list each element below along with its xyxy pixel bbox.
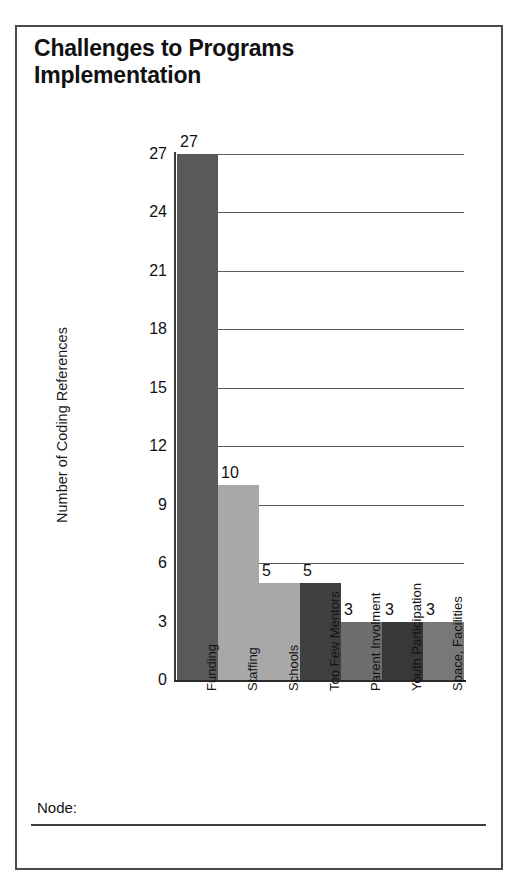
x-axis-category-label: Parent Involment	[368, 593, 383, 691]
y-axis-tick-label: 0	[127, 671, 167, 689]
y-axis-tick-label: 12	[127, 437, 167, 455]
x-axis-category-label: Funding	[204, 644, 219, 691]
y-axis-tick-label: 21	[127, 262, 167, 280]
y-axis-tick-labels: 0369121518212427	[122, 154, 167, 680]
x-axis-category-label: Youth Participation	[409, 583, 424, 691]
y-axis-tick-label: 3	[127, 613, 167, 631]
y-axis-tick-label: 24	[127, 203, 167, 221]
x-axis-category-label: Space, Facilities	[450, 596, 465, 691]
x-axis-category-label: Too Few Mentors	[327, 591, 342, 691]
y-axis-tick-label: 27	[127, 145, 167, 163]
footer-node-label: Node:	[37, 799, 77, 816]
y-axis-tick-label: 18	[127, 320, 167, 338]
y-axis-line	[174, 152, 176, 682]
gridline	[177, 154, 464, 155]
x-axis-category-label: Schools	[286, 645, 301, 691]
footer-divider	[31, 824, 486, 826]
bar-value-label: 10	[221, 464, 239, 482]
bar-value-label: 3	[344, 601, 353, 619]
bar-value-label: 3	[385, 601, 394, 619]
gridline	[177, 329, 464, 330]
page-title: Challenges to Programs Implementation	[34, 35, 364, 89]
gridline	[177, 446, 464, 447]
gridline	[177, 271, 464, 272]
bar-value-label: 5	[262, 562, 271, 580]
chart-page-frame: Challenges to Programs Implementation Nu…	[15, 25, 503, 870]
bar[interactable]	[177, 154, 218, 680]
gridline	[177, 212, 464, 213]
y-axis-title: Number of Coding References	[54, 300, 70, 550]
x-axis-category-labels: FundingStaffingSchoolsToo Few MentorsPar…	[177, 685, 477, 835]
bar-value-label: 27	[180, 133, 198, 151]
y-axis-tick-label: 6	[127, 554, 167, 572]
y-axis-tick-label: 9	[127, 496, 167, 514]
x-axis-category-label: Staffing	[245, 647, 260, 691]
bar-value-label: 3	[426, 601, 435, 619]
gridline	[177, 388, 464, 389]
bar-value-label: 5	[303, 562, 312, 580]
y-axis-tick-label: 15	[127, 379, 167, 397]
